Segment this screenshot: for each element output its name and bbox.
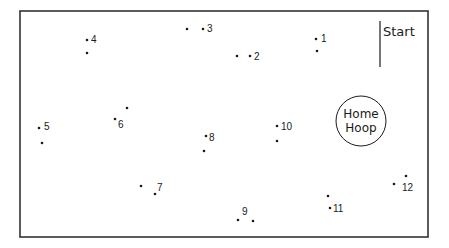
gate-number-label: 11 [333,203,344,214]
gate-post-dot [276,140,279,143]
gate-post-dot [236,55,239,58]
gate-1: 1 [315,33,327,52]
gate-11: 11 [327,195,344,214]
gate-6: 6 [114,107,129,130]
gate-number-label: 3 [207,23,213,34]
gate-post-dot [316,50,319,53]
gate-post-dot [205,135,208,138]
home-hoop: Home Hoop [336,96,386,146]
gate-5: 5 [38,121,50,144]
course-diagram: Start Home Hoop 123456789101112 [0,0,449,248]
gate-post-dot [140,185,143,188]
start-label: Start [383,24,415,39]
gate-post-dot [249,55,252,58]
gate-post-dot [252,220,255,223]
gate-number-label: 7 [157,182,163,193]
gate-post-dot [203,150,206,153]
gate-post-dot [276,125,279,128]
gate-post-dot [315,38,318,41]
gate-9: 9 [237,206,255,222]
gate-number-label: 10 [281,121,293,132]
home-hoop-label-line1: Home [343,107,378,121]
gate-4: 4 [86,34,97,54]
gate-post-dot [405,175,408,178]
gate-post-dot [41,142,44,145]
gate-number-label: 12 [402,182,414,193]
gate-number-label: 2 [254,51,260,62]
gate-post-dot [202,28,205,31]
gate-post-dot [329,207,332,210]
gate-number-label: 4 [91,34,97,45]
gate-number-label: 8 [209,132,215,143]
gate-post-dot [126,107,129,110]
gate-post-dot [86,39,89,42]
gate-10: 10 [276,121,293,142]
gate-8: 8 [203,132,215,152]
gate-7: 7 [140,182,163,195]
gate-number-label: 9 [242,206,248,217]
gate-2: 2 [236,51,260,62]
gate-12: 12 [393,175,414,193]
gate-post-dot [186,28,189,31]
gate-post-dot [327,195,330,198]
start-marker: Start [380,21,415,67]
gate-post-dot [154,193,157,196]
home-hoop-label-line2: Hoop [345,121,376,135]
gate-post-dot [393,183,396,186]
gate-post-dot [237,219,240,222]
gate-number-label: 5 [44,121,50,132]
gate-3: 3 [186,23,213,34]
gate-post-dot [86,52,89,55]
gate-post-dot [38,127,41,130]
gate-number-label: 1 [321,33,327,44]
gate-number-label: 6 [118,119,124,130]
gate-post-dot [114,118,117,121]
